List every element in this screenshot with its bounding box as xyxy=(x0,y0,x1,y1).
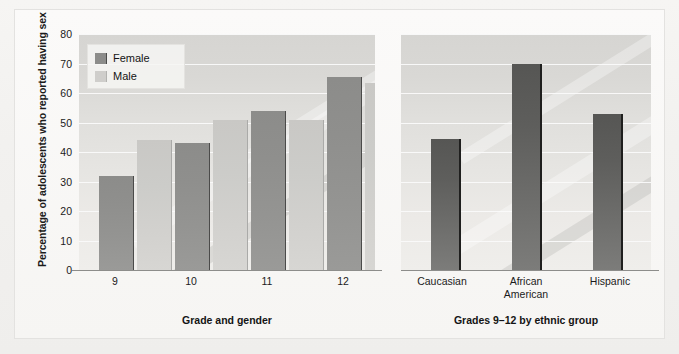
y-tick-80: 80 xyxy=(46,28,72,40)
x-label-caucasian: Caucasian xyxy=(400,275,484,288)
x-label-grade-10: 10 xyxy=(155,275,227,288)
bar-grade9-female xyxy=(99,176,134,270)
right-chart-plot-area xyxy=(401,34,651,270)
right-chart-x-axis-title: Grades 9–12 by ethnic group xyxy=(401,314,651,326)
right-chart-x-axis-line xyxy=(401,270,659,271)
legend-label-female: Female xyxy=(113,53,150,64)
y-tick-70: 70 xyxy=(46,58,72,70)
x-label-african-american-line2: American xyxy=(484,288,568,301)
bar-grade11-female xyxy=(251,111,286,270)
bar-grade10-female xyxy=(175,143,210,270)
y-tick-50: 50 xyxy=(46,117,72,129)
gridline-r-80 xyxy=(401,34,651,35)
x-label-african-american: African American xyxy=(484,275,568,300)
left-chart-x-axis-title: Grade and gender xyxy=(79,314,375,326)
bar-grade12-female xyxy=(327,77,362,270)
bar-hispanic xyxy=(593,114,623,270)
chart-figure: Percentage of adolescents who reported h… xyxy=(0,0,679,354)
y-tick-0: 0 xyxy=(46,264,72,276)
x-label-caucasian-line1: Caucasian xyxy=(400,275,484,288)
x-label-grade-9: 9 xyxy=(79,275,151,288)
x-label-hispanic-line1: Hispanic xyxy=(568,275,652,288)
bar-grade12-male xyxy=(365,83,375,270)
x-label-african-american-line1: African xyxy=(484,275,568,288)
y-tick-30: 30 xyxy=(46,176,72,188)
bar-african-american xyxy=(512,64,542,271)
legend-item-male: Male xyxy=(95,68,178,85)
legend-swatch-female-icon xyxy=(95,53,107,64)
y-tick-40: 40 xyxy=(46,146,72,158)
bar-grade10-male xyxy=(213,120,248,271)
y-axis-tick-labels: 80 70 60 50 40 30 20 10 0 xyxy=(46,28,72,276)
legend: Female Male xyxy=(87,44,185,89)
legend-swatch-male-icon xyxy=(95,71,107,82)
gridline-80 xyxy=(79,34,375,35)
x-label-grade-12: 12 xyxy=(307,275,379,288)
legend-label-male: Male xyxy=(113,71,137,82)
bar-caucasian xyxy=(431,139,461,270)
y-tick-10: 10 xyxy=(46,235,72,247)
legend-item-female: Female xyxy=(95,50,178,67)
left-chart-x-axis-line xyxy=(72,270,382,271)
x-label-grade-11: 11 xyxy=(231,275,303,288)
y-tick-20: 20 xyxy=(46,205,72,217)
y-tick-60: 60 xyxy=(46,87,72,99)
x-label-hispanic: Hispanic xyxy=(568,275,652,288)
bar-grade11-male xyxy=(289,120,324,271)
bar-grade9-male xyxy=(137,140,172,270)
